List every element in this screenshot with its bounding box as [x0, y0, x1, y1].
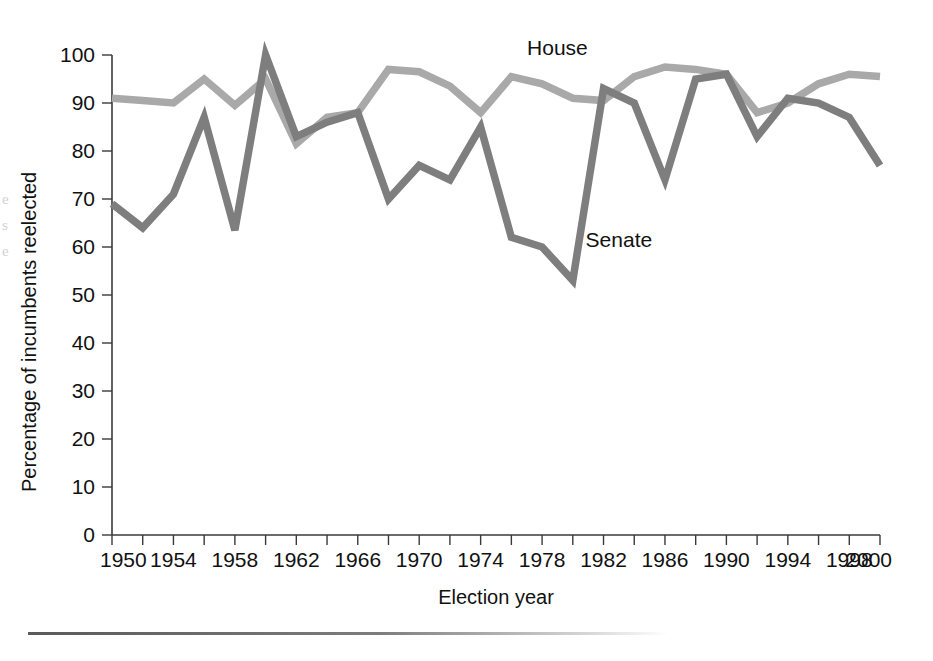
y-tick-label: 30	[72, 379, 95, 402]
x-tick-label: 1962	[273, 548, 320, 571]
y-tick-label: 10	[72, 475, 95, 498]
x-tick-label: 1982	[580, 548, 627, 571]
series-label-house: House	[527, 36, 588, 59]
series-annotations: HouseSenate	[527, 36, 652, 251]
y-axis-tick-labels: 0102030405060708090100	[60, 43, 95, 546]
x-tick-label: 2000	[845, 548, 892, 571]
y-tick-label: 100	[60, 43, 95, 66]
x-tick-label: 1990	[703, 548, 750, 571]
y-tick-label: 70	[72, 187, 95, 210]
chart-container: 0102030405060708090100 19501954195819621…	[0, 0, 933, 661]
data-series-group	[112, 55, 880, 281]
y-tick-label: 80	[72, 139, 95, 162]
series-label-senate: Senate	[586, 228, 653, 251]
x-axis-tick-labels: 1950195419581962196619701974197819821986…	[100, 548, 892, 571]
y-axis-ticks	[102, 55, 112, 535]
y-tick-label: 40	[72, 331, 95, 354]
x-axis-title: Election year	[438, 586, 554, 608]
x-tick-label: 1958	[212, 548, 259, 571]
x-tick-label: 1986	[642, 548, 689, 571]
x-tick-label: 1970	[396, 548, 443, 571]
x-tick-label: 1994	[764, 548, 811, 571]
y-tick-label: 60	[72, 235, 95, 258]
x-axis-ticks	[112, 535, 880, 545]
x-tick-label: 1954	[150, 548, 197, 571]
page-scan-artifact: ese	[2, 186, 10, 264]
x-tick-label: 1974	[457, 548, 504, 571]
y-tick-label: 20	[72, 427, 95, 450]
y-axis-title: Percentage of incumbents reelected	[18, 172, 40, 492]
y-tick-label: 90	[72, 91, 95, 114]
y-tick-label: 0	[83, 523, 95, 546]
y-tick-label: 50	[72, 283, 95, 306]
x-tick-label: 1950	[100, 548, 147, 571]
page-footer-rule	[28, 632, 668, 635]
line-chart: 0102030405060708090100 19501954195819621…	[0, 0, 933, 661]
x-tick-label: 1966	[334, 548, 381, 571]
x-tick-label: 1978	[519, 548, 566, 571]
